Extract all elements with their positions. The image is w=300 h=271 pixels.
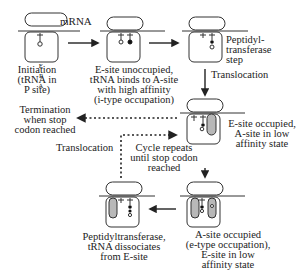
- caption-a-site-occupied: A-site occupied (e-type occupation), E-s…: [172, 230, 284, 270]
- label-cycle-repeats: Cycle repeats until stop codon reached: [125, 143, 203, 173]
- label-translocation-1: Translocation: [211, 70, 268, 80]
- caption-a-site-binding: E-site unoccupied, tRNA binds to A-site …: [80, 65, 188, 105]
- label-termination: Termination when stop codon reached: [12, 105, 78, 135]
- caption-e-site-occupied: E-site occupied, A-site in low affinity …: [222, 119, 300, 149]
- ribosome-e-site-dissociation: [99, 182, 155, 227]
- label-translocation-2: Translocation: [56, 143, 113, 153]
- ribosome-a-site-occupied: [180, 182, 245, 227]
- caption-e-site-dissociation: Peptidyltransferase, tRNA dissociates fr…: [74, 232, 174, 262]
- ribosome-a-site-binding: [100, 17, 165, 62]
- caption-peptidyl-transferase: Peptidyl- transferase step: [226, 35, 271, 65]
- mrna-label: mRNA: [60, 16, 92, 26]
- caption-initiation: Initiation (tRNA in P site): [8, 65, 66, 95]
